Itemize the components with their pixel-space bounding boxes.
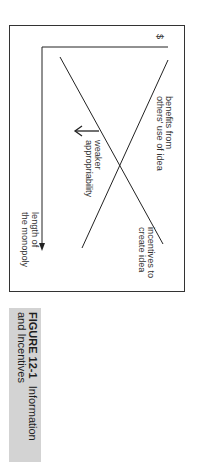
caption-line2: and Incentives: [16, 312, 28, 383]
y-axis-label: $: [155, 34, 165, 39]
x-axis-label-line1: length of: [30, 212, 40, 248]
benefits-curve-label-line2: others' use of idea: [155, 96, 165, 172]
x-axis-label-line2: the monopoly: [20, 212, 30, 268]
incentives-curve-label-line2: create idea: [137, 227, 147, 273]
incentives-curve: [60, 57, 163, 244]
figure-canvas: $ length of the monopoly benefits from o…: [0, 0, 203, 462]
shift-annotation-line2: appropriability: [84, 140, 94, 198]
caption-title-part1: Information: [27, 386, 39, 441]
